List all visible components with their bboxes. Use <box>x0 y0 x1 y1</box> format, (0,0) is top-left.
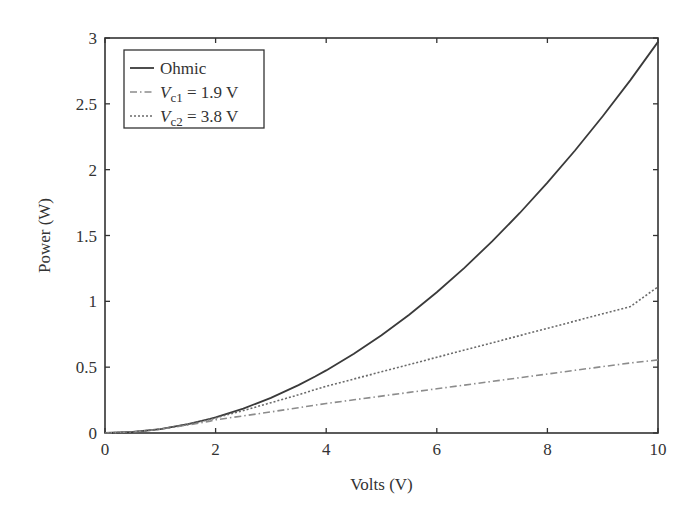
x-axis-label: Volts (V) <box>350 475 413 494</box>
legend-label-suffix: = 1.9 V <box>183 83 239 102</box>
x-tick-label: 4 <box>322 440 331 459</box>
y-tick-label: 2 <box>89 161 98 180</box>
y-tick-label: 2.5 <box>76 95 97 114</box>
y-tick-label: 0 <box>89 424 98 443</box>
series-line-2 <box>105 287 658 433</box>
power-vs-volts-chart: 0246810 00.511.522.53 Volts (V) Power (W… <box>0 0 697 519</box>
legend-label-sub: c1 <box>170 90 182 105</box>
legend-label-suffix: = 3.8 V <box>183 107 239 126</box>
legend-label: Ohmic <box>160 59 207 78</box>
y-tick-label: 1.5 <box>76 227 97 246</box>
x-tick-label: 0 <box>101 440 110 459</box>
x-tick-label: 10 <box>650 440 667 459</box>
x-tick-label: 2 <box>211 440 220 459</box>
x-tick-label: 6 <box>433 440 442 459</box>
y-tick-label: 0.5 <box>76 358 97 377</box>
series-line-1 <box>105 360 658 433</box>
y-axis-label: Power (W) <box>35 198 54 273</box>
legend: OhmicVc1 = 1.9 VVc2 = 3.8 V <box>124 50 264 129</box>
legend-label-sub: c2 <box>170 114 182 129</box>
y-tick-label: 3 <box>89 29 98 48</box>
y-tick-label: 1 <box>89 292 98 311</box>
x-tick-label: 8 <box>543 440 552 459</box>
